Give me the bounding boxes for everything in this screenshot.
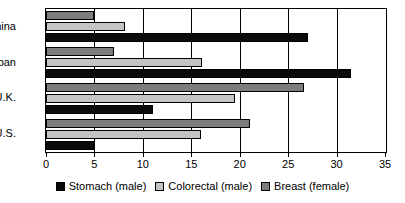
- x-tick-35: [385, 153, 386, 157]
- x-tick-label-15: 15: [176, 158, 206, 170]
- x-tick-label-25: 25: [273, 158, 303, 170]
- x-tick-30: [337, 153, 338, 157]
- x-tick-5: [94, 153, 95, 157]
- chart-legend: Stomach (male)Colorectal (male)Breast (f…: [0, 180, 405, 192]
- bar-u-k-stomach-male: [46, 105, 153, 114]
- bar-u-k-breast-female: [46, 83, 304, 92]
- legend-swatch-breast-female: [261, 182, 270, 191]
- legend-item-colorectal-male[interactable]: Colorectal (male): [155, 180, 252, 192]
- legend-label-stomach-male: Stomach (male): [69, 180, 147, 192]
- legend-swatch-stomach-male: [56, 182, 65, 191]
- legend-label-breast-female: Breast (female): [274, 180, 349, 192]
- x-tick-label-5: 5: [79, 158, 109, 170]
- x-tick-25: [288, 153, 289, 157]
- x-tick-10: [143, 153, 144, 157]
- category-label-china: China: [0, 21, 16, 32]
- legend-label-colorectal-male: Colorectal (male): [168, 180, 252, 192]
- x-tick-15: [191, 153, 192, 157]
- x-tick-label-30: 30: [322, 158, 352, 170]
- legend-swatch-colorectal-male: [155, 182, 164, 191]
- bar-chart: ChinaJapanU.K.U.S. 05101520253035 Stomac…: [0, 0, 405, 203]
- bar-u-k-colorectal-male: [46, 94, 235, 103]
- legend-item-stomach-male[interactable]: Stomach (male): [56, 180, 147, 192]
- x-tick-label-0: 0: [31, 158, 61, 170]
- category-label-u-k: U.K.: [0, 92, 16, 103]
- x-tick-0: [46, 153, 47, 157]
- bar-china-colorectal-male: [46, 22, 125, 31]
- bar-u-s-colorectal-male: [46, 130, 201, 139]
- bar-u-s-breast-female: [46, 119, 250, 128]
- x-tick-label-10: 10: [128, 158, 158, 170]
- category-label-u-s: U.S.: [0, 128, 16, 139]
- bar-china-stomach-male: [46, 33, 308, 42]
- bar-japan-stomach-male: [46, 69, 351, 78]
- legend-item-breast-female[interactable]: Breast (female): [261, 180, 349, 192]
- x-tick-20: [240, 153, 241, 157]
- bar-u-s-stomach-male: [46, 141, 94, 150]
- bar-japan-breast-female: [46, 47, 114, 56]
- bar-japan-colorectal-male: [46, 58, 202, 67]
- x-tick-label-20: 20: [225, 158, 255, 170]
- bar-china-breast-female: [46, 11, 94, 20]
- x-tick-label-35: 35: [370, 158, 400, 170]
- category-label-japan: Japan: [0, 57, 16, 68]
- bars-layer: [46, 9, 387, 152]
